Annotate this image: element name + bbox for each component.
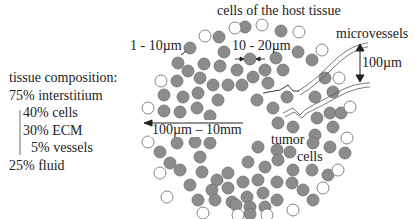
label-microvessels: microvessels — [336, 26, 408, 42]
label-host-cells: cells of the host tissue — [217, 3, 341, 19]
composition-cells: 40% cells — [9, 104, 118, 122]
composition-title: tissue composition: — [9, 69, 118, 87]
composition-interstitium: 75% interstitium — [9, 87, 118, 105]
composition-vessels: 5% vessels — [9, 139, 118, 157]
label-tumor-cells-2: cells — [297, 149, 323, 165]
label-tumor-cells-1: tumor — [271, 132, 304, 148]
microvessel-lower-sprout — [283, 108, 302, 118]
composition-ecm: 30% ECM — [9, 122, 118, 140]
label-cell-size: 10 - 20µm — [232, 38, 291, 54]
label-tumor-size: 100µm – 10mm — [152, 122, 242, 138]
label-vessel-spacing: 100µm — [362, 55, 402, 71]
tissue-composition: tissue composition: 75% interstitium 40%… — [9, 69, 118, 174]
label-gap-size: 1 - 10µm — [130, 38, 182, 54]
composition-fluid: 25% fluid — [9, 157, 118, 175]
